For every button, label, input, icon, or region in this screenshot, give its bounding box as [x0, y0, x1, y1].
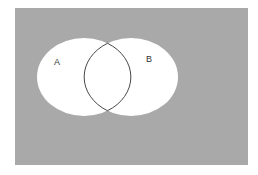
venn-diagram: A B [0, 0, 258, 175]
set-a-label: A [54, 57, 60, 67]
set-b-label: B [146, 54, 152, 64]
